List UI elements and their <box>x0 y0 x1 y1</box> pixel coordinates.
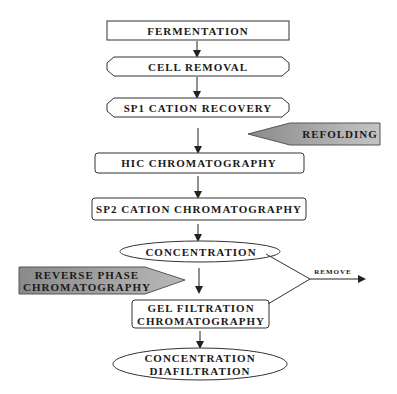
step-hic-chromatography-label: HIC CHROMATOGRAPHY <box>121 157 276 169</box>
output-remove-label: REMOVE <box>314 268 352 276</box>
step-concentration-diafiltration-label-line1: CONCENTRATION <box>144 352 255 364</box>
step-cell-removal: CELL REMOVAL <box>107 57 289 76</box>
step-gel-filtration: GEL FILTRATION CHROMATOGRAPHY <box>132 300 269 328</box>
side-input-reverse-phase-label-line1: REVERSE PHASE <box>35 269 139 281</box>
output-remove: REMOVE <box>266 254 362 304</box>
step-fermentation: FERMENTATION <box>107 21 289 40</box>
side-input-reverse-phase-label-line2: CHROMATOGRAPHY <box>23 281 151 293</box>
side-input-refolding: REFOLDING <box>248 123 380 145</box>
step-gel-filtration-label-line2: CHROMATOGRAPHY <box>137 315 265 327</box>
step-concentration-diafiltration-label-line2: DIAFILTRATION <box>149 365 250 377</box>
step-concentration-diafiltration: CONCENTRATION DIAFILTRATION <box>113 348 287 380</box>
step-sp1-cation-recovery: SP1 CATION RECOVERY <box>107 98 289 117</box>
step-sp2-cation-chromatography: SP2 CATION CHROMATOGRAPHY <box>92 198 306 220</box>
side-input-reverse-phase: REVERSE PHASE CHROMATOGRAPHY <box>19 267 185 294</box>
step-concentration: CONCENTRATION <box>120 241 280 262</box>
step-concentration-label: CONCENTRATION <box>145 246 256 258</box>
process-flow-diagram: FERMENTATION CELL REMOVAL SP1 CATION REC… <box>0 0 397 394</box>
step-cell-removal-label: CELL REMOVAL <box>148 61 248 73</box>
side-input-refolding-label: REFOLDING <box>302 128 378 140</box>
step-gel-filtration-label-line1: GEL FILTRATION <box>147 302 254 314</box>
step-hic-chromatography: HIC CHROMATOGRAPHY <box>95 153 304 173</box>
step-fermentation-label: FERMENTATION <box>147 25 248 37</box>
step-sp2-cation-chromatography-label: SP2 CATION CHROMATOGRAPHY <box>96 203 302 215</box>
step-sp1-cation-recovery-label: SP1 CATION RECOVERY <box>124 102 273 114</box>
